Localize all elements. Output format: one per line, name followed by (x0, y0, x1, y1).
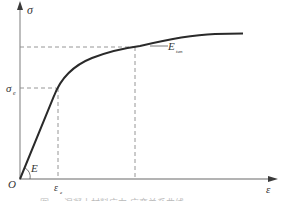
stress-strain-diagram: σ ε O σ e ε e E E tan (0, 0, 284, 201)
initial-modulus-label: E (30, 162, 38, 174)
origin-label: O (8, 178, 16, 190)
sigma-e-label: σ e (6, 82, 16, 96)
modulus-angle-arc (25, 168, 30, 179)
x-axis (20, 176, 278, 182)
y-axis (17, 1, 23, 180)
svg-text:σ: σ (6, 82, 12, 94)
svg-text:ε: ε (54, 182, 58, 193)
tangent-modulus-label: E tan (167, 40, 183, 54)
stress-strain-curve (20, 34, 243, 180)
figure-caption: 图 — 混凝土材料应力-应变关系曲线 (40, 196, 260, 201)
x-axis-label: ε (266, 183, 271, 195)
svg-text:e: e (60, 190, 63, 195)
svg-text:e: e (13, 90, 16, 96)
svg-text:E: E (167, 40, 175, 52)
epsilon-e-label: ε e (54, 182, 63, 195)
svg-text:tan: tan (176, 49, 183, 54)
y-axis-label: σ (27, 3, 34, 17)
